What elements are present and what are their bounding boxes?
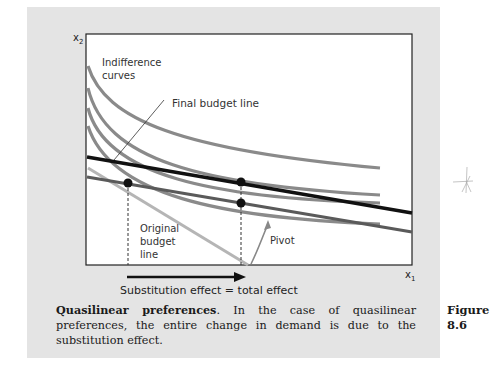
original-optimum-dot bbox=[124, 179, 133, 188]
figure-caption: Quasilinear preferences. In the case of … bbox=[56, 303, 416, 348]
label-indifference-2: curves bbox=[102, 70, 135, 81]
figure-number-value: 8.6 bbox=[447, 318, 489, 333]
x-axis-label: x1 bbox=[405, 269, 415, 283]
label-original-3: line bbox=[140, 249, 158, 260]
label-original-2: budget bbox=[140, 236, 176, 247]
caption-title: Quasilinear preferences bbox=[56, 303, 216, 317]
effect-caption: Substitution effect = total effect bbox=[120, 284, 298, 297]
label-original-1: Original bbox=[140, 223, 179, 234]
final-optimum-dot bbox=[237, 178, 246, 187]
figure-number: Figure 8.6 bbox=[447, 303, 489, 333]
figure-number-label: Figure bbox=[447, 303, 489, 318]
effect-arrowhead-icon bbox=[234, 272, 246, 282]
y-axis-label: x2 bbox=[73, 32, 83, 46]
compensated-optimum-dot bbox=[237, 199, 246, 208]
label-pivot: Pivot bbox=[270, 235, 295, 246]
label-indifference-1: Indifference bbox=[102, 57, 162, 68]
label-final-budget: Final budget line bbox=[172, 97, 259, 109]
pencil-mark-icon bbox=[453, 167, 473, 193]
